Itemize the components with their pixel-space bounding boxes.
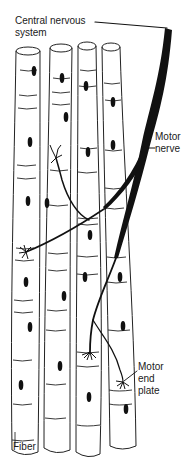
label-motor-nerve-line2: nerve <box>155 143 181 155</box>
label-fiber: Fiber <box>13 441 36 453</box>
nerve-branch-3 <box>90 258 116 352</box>
striations <box>12 70 132 441</box>
nerve-branch-1 <box>26 209 104 252</box>
label-cns-line2: system <box>15 27 86 39</box>
cns-leader-line <box>95 22 167 28</box>
label-cns: Central nervous system <box>15 15 86 39</box>
label-end-plate-line1: Motor <box>138 361 164 373</box>
label-motor-nerve: Motor nerve <box>155 131 181 155</box>
label-end-plate-line2: end <box>138 373 164 385</box>
nerve-branch-2 <box>56 158 89 220</box>
label-motor-end-plate: Motor end plate <box>138 361 164 397</box>
label-motor-nerve-line1: Motor <box>155 131 181 143</box>
end-plate-leader-line <box>124 371 137 381</box>
label-cns-line1: Central nervous <box>15 15 86 27</box>
fiber-nuclei <box>19 66 129 414</box>
label-end-plate-line3: plate <box>138 385 164 397</box>
